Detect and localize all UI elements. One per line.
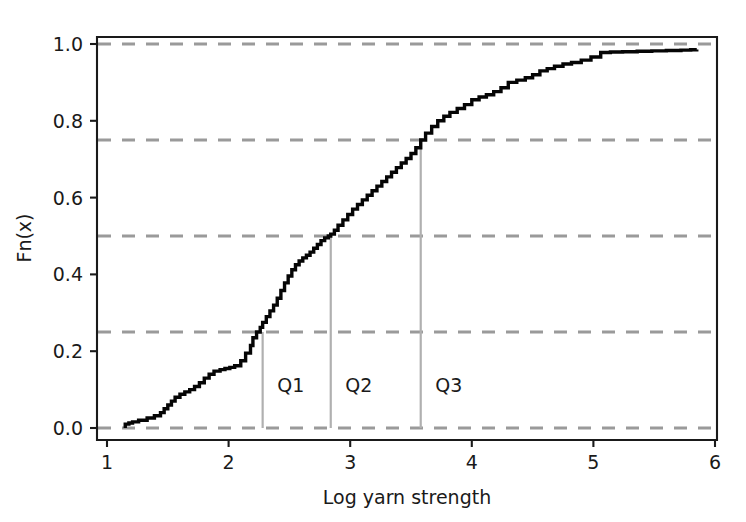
- gridlines: [98, 44, 716, 428]
- quartile-label-q2: Q2: [345, 374, 372, 396]
- x-axis-label: Log yarn strength: [323, 486, 491, 508]
- y-tick-label-0.0: 0.0: [53, 417, 83, 439]
- y-tick-label-0.2: 0.2: [53, 340, 83, 362]
- x-tick-label-2: 2: [223, 451, 235, 473]
- y-axis-ticks: 0.00.20.40.60.81.0: [53, 33, 97, 439]
- x-tick-label-4: 4: [466, 451, 478, 473]
- y-tick-label-0.4: 0.4: [53, 263, 83, 285]
- x-axis-ticks: 123456: [101, 440, 721, 473]
- ecdf-chart-svg: 123456 0.00.20.40.60.81.0 Q1Q2Q3 Log yar…: [0, 0, 746, 522]
- x-tick-label-3: 3: [344, 451, 356, 473]
- y-axis-label: Fn(x): [13, 213, 35, 262]
- quartile-label-q3: Q3: [435, 374, 462, 396]
- y-tick-label-0.8: 0.8: [53, 110, 83, 132]
- ecdf-curve: [125, 49, 697, 428]
- x-tick-label-1: 1: [101, 451, 113, 473]
- ecdf-figure: 123456 0.00.20.40.60.81.0 Q1Q2Q3 Log yar…: [0, 0, 746, 522]
- x-tick-label-6: 6: [709, 451, 721, 473]
- y-tick-label-1.0: 1.0: [53, 33, 83, 55]
- quartile-labels: Q1Q2Q3: [277, 374, 462, 396]
- plot-frame: [97, 37, 717, 440]
- x-tick-label-5: 5: [587, 451, 599, 473]
- axes-spines: [97, 37, 717, 440]
- y-tick-label-0.6: 0.6: [53, 187, 83, 209]
- quartile-label-q1: Q1: [277, 374, 304, 396]
